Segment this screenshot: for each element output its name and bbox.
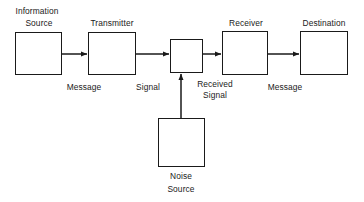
- diagram-canvas: Information Source Transmitter Receiver …: [0, 0, 364, 202]
- label-noise: Noise: [170, 171, 192, 181]
- box-noise-source: [158, 118, 205, 167]
- label-signal: Signal: [136, 82, 160, 92]
- label-received: Received: [197, 79, 233, 89]
- label-received-signal: Signal: [203, 90, 227, 100]
- title-information: Information: [16, 6, 59, 16]
- title-transmitter: Transmitter: [90, 18, 133, 28]
- title-receiver: Receiver: [229, 18, 263, 28]
- box-receiver: [222, 31, 268, 75]
- label-message-right: Message: [268, 82, 303, 92]
- box-channel: [170, 39, 203, 73]
- box-transmitter: [88, 32, 136, 75]
- label-noise-source: Source: [167, 184, 194, 194]
- box-information-source: [15, 32, 62, 75]
- label-message-left: Message: [67, 82, 102, 92]
- box-destination: [300, 31, 348, 75]
- title-destination: Destination: [303, 18, 346, 28]
- title-source: Source: [25, 18, 52, 28]
